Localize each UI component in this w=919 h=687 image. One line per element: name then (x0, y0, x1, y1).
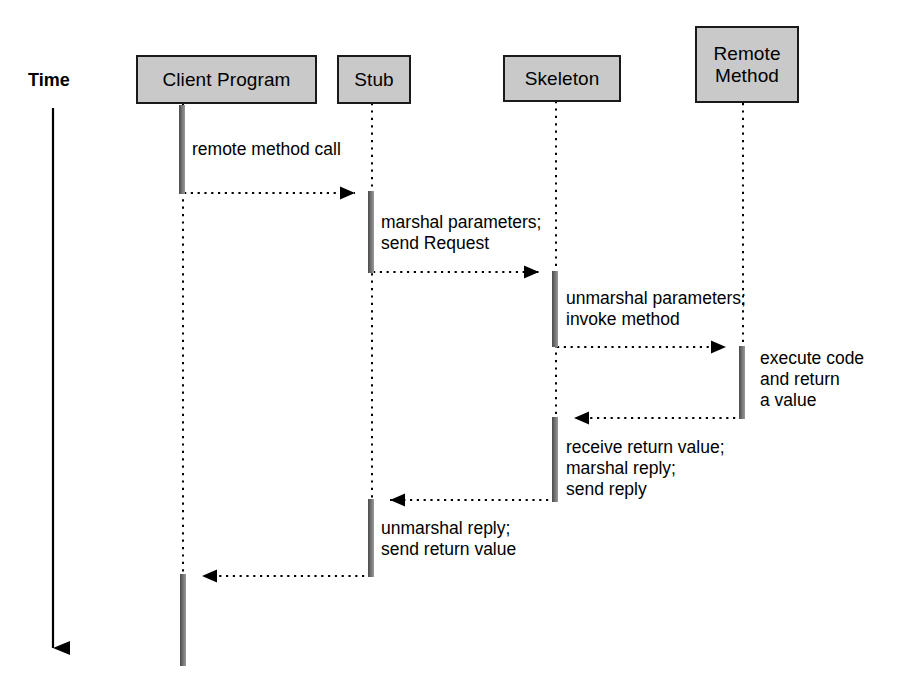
participant-label-client-program: Client Program (162, 69, 290, 90)
note-unmarshal-parameters: unmarshal parameters; invoke method (566, 288, 746, 330)
activation-bar-skeleton-2 (552, 417, 558, 502)
participant-label-remote-method: Remote Method (697, 43, 797, 86)
activation-bar-remote-method (739, 346, 745, 419)
activation-bar-stub-1 (368, 191, 374, 273)
note-unmarshal-reply: unmarshal reply; send return value (381, 518, 516, 560)
participant-box-remote-method[interactable]: Remote Method (695, 26, 799, 103)
activation-bar-client-2 (180, 574, 186, 666)
activation-bar-skeleton-1 (552, 271, 558, 347)
participant-box-stub[interactable]: Stub (337, 55, 411, 104)
note-marshal-parameters: marshal parameters; send Request (381, 212, 541, 254)
participant-box-skeleton[interactable]: Skeleton (503, 55, 621, 102)
sequence-diagram-canvas: Client Program Stub Skeleton Remote Meth… (0, 0, 919, 687)
activation-bar-stub-2 (368, 499, 374, 577)
participant-label-skeleton: Skeleton (525, 68, 600, 89)
participant-box-client-program[interactable]: Client Program (136, 55, 317, 104)
note-receive-return-value: receive return value; marshal reply; sen… (566, 437, 725, 500)
note-remote-method-call: remote method call (192, 139, 341, 160)
activation-bar-client-1 (179, 105, 185, 194)
participant-label-stub: Stub (354, 69, 394, 90)
time-axis-label: Time (28, 70, 70, 91)
note-execute-code: execute code and return a value (760, 348, 864, 411)
